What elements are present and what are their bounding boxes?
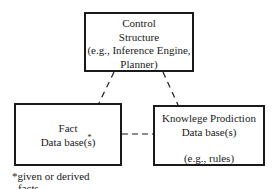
knowledge-database-box: Knowlege Prodiction Data base(s) (e.g., … (153, 105, 265, 166)
edge-control-knowledge (163, 72, 178, 105)
fact-footnote-mark: *s (87, 136, 91, 148)
asterisk: * (88, 131, 92, 145)
footnote: *given or derived facts (12, 170, 90, 189)
footnote-line-2: facts (12, 182, 90, 189)
control-structure-box: Control Structure (e.g., Inference Engin… (84, 12, 194, 72)
control-line-3: (e.g., Inference Engine, (86, 44, 192, 58)
fact-line-1: Fact (16, 122, 120, 136)
knowledge-line-3: (e.g., rules) (155, 152, 263, 166)
fact-database-box: Fact Data base(*s) (14, 103, 122, 166)
fact-line-2-suffix: ) (92, 136, 96, 148)
edge-control-fact (99, 72, 114, 103)
knowledge-spacer (155, 139, 263, 152)
control-line-4: Planner) (86, 58, 192, 72)
fact-line-2-prefix: Data base( (41, 136, 88, 148)
control-line-1: Control (86, 17, 192, 31)
control-line-2: Structure (86, 31, 192, 45)
knowledge-line-2: Data base(s) (155, 126, 263, 140)
footnote-line-1: *given or derived (12, 170, 90, 182)
knowledge-line-1: Knowlege Prodiction (155, 112, 263, 126)
fact-line-2: Data base(*s) (16, 136, 120, 150)
